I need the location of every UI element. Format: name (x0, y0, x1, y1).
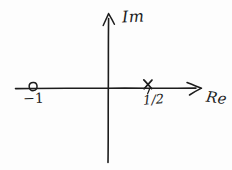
pole-value-fraction: 1/2 (143, 92, 165, 106)
zero-value-label: −1 (23, 91, 44, 106)
pole-value-label: 1/2 (143, 91, 165, 106)
real-axis-label: Re (205, 90, 228, 108)
imaginary-axis-label: Im (122, 8, 145, 25)
sketch-canvas (0, 0, 232, 170)
real-axis-line (16, 88, 197, 89)
complex-plane-figure: Im Re −1 1/2 (0, 0, 232, 170)
imaginary-axis-line (108, 19, 109, 163)
